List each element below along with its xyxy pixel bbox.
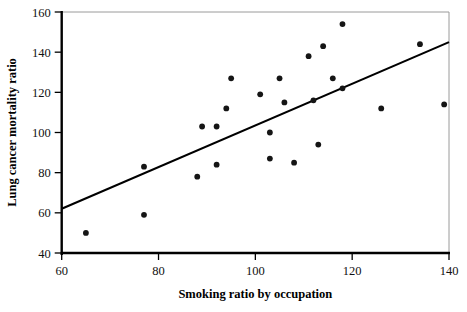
y-axis-tick-label: 80 <box>38 166 51 180</box>
data-point <box>315 142 321 148</box>
data-point <box>277 75 283 81</box>
data-point <box>340 85 346 91</box>
y-axis-title: Lung cancer mortality ratio <box>5 58 19 207</box>
y-axis-tick-label: 160 <box>32 6 51 20</box>
data-point <box>330 75 336 81</box>
data-point <box>417 41 423 47</box>
data-point <box>214 124 220 130</box>
y-axis-tick-label: 40 <box>38 247 51 261</box>
data-point <box>291 160 297 166</box>
regression-trend-line <box>62 42 449 209</box>
data-point <box>311 97 317 103</box>
x-axis-tick-label: 120 <box>343 264 362 278</box>
data-point <box>228 75 234 81</box>
data-point <box>194 174 200 180</box>
scatter-plot-figure: 4060801001201401606080100120140Smoking r… <box>0 0 467 312</box>
x-axis-tick-label: 60 <box>55 264 68 278</box>
x-axis-title: Smoking ratio by occupation <box>178 287 332 301</box>
data-point <box>267 156 273 162</box>
data-point <box>214 162 220 168</box>
plot-canvas: 4060801001201401606080100120140Smoking r… <box>0 0 467 312</box>
data-point <box>267 130 273 136</box>
y-axis-tick-label: 100 <box>32 126 51 140</box>
data-point <box>378 106 384 112</box>
y-axis-tick-label: 120 <box>32 86 51 100</box>
data-point <box>340 21 346 27</box>
data-point <box>199 124 205 130</box>
x-axis-tick-label: 80 <box>152 264 165 278</box>
data-point <box>83 230 89 236</box>
data-point <box>320 43 326 49</box>
y-axis-tick-label: 60 <box>38 206 51 220</box>
data-point <box>306 53 312 59</box>
x-axis-tick-label: 140 <box>440 264 459 278</box>
data-point <box>141 164 147 170</box>
data-point <box>223 106 229 112</box>
data-point <box>257 91 263 97</box>
y-axis-tick-label: 140 <box>32 46 51 60</box>
x-axis-tick-label: 100 <box>246 264 265 278</box>
data-point <box>281 99 287 105</box>
data-point <box>441 101 447 107</box>
data-point <box>141 212 147 218</box>
